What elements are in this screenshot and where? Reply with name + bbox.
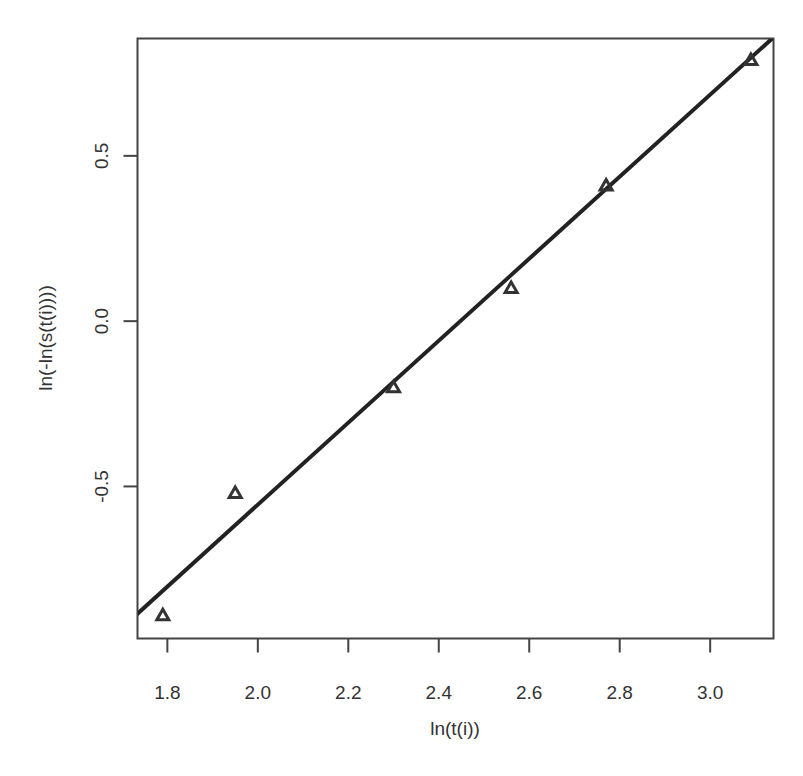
triangle-marker-icon — [229, 487, 241, 498]
x-tick-label: 1.8 — [154, 682, 180, 703]
fit-line — [115, 17, 796, 634]
y-axis-label: ln(-ln(s(t(i)))) — [35, 285, 56, 391]
x-tick-label: 2.6 — [516, 682, 542, 703]
x-tick-label: 2.0 — [245, 682, 271, 703]
y-tick-label: -0.5 — [91, 470, 112, 503]
data-points — [157, 54, 757, 620]
plot-frame — [138, 39, 774, 639]
x-axis: 1.82.02.22.42.62.83.0 — [154, 639, 723, 703]
y-tick-label: 0.0 — [91, 308, 112, 334]
triangle-marker-icon — [157, 609, 169, 620]
x-axis-label: ln(t(i)) — [430, 718, 480, 739]
triangle-marker-icon — [505, 282, 517, 293]
x-tick-label: 2.2 — [335, 682, 361, 703]
y-tick-label: 0.5 — [91, 143, 112, 169]
x-tick-label: 2.8 — [606, 682, 632, 703]
chart: 1.82.02.22.42.62.83.0 -0.50.00.5 ln(t(i)… — [0, 0, 803, 776]
y-axis: -0.50.00.5 — [91, 143, 138, 503]
x-tick-label: 3.0 — [697, 682, 723, 703]
x-tick-label: 2.4 — [426, 682, 453, 703]
